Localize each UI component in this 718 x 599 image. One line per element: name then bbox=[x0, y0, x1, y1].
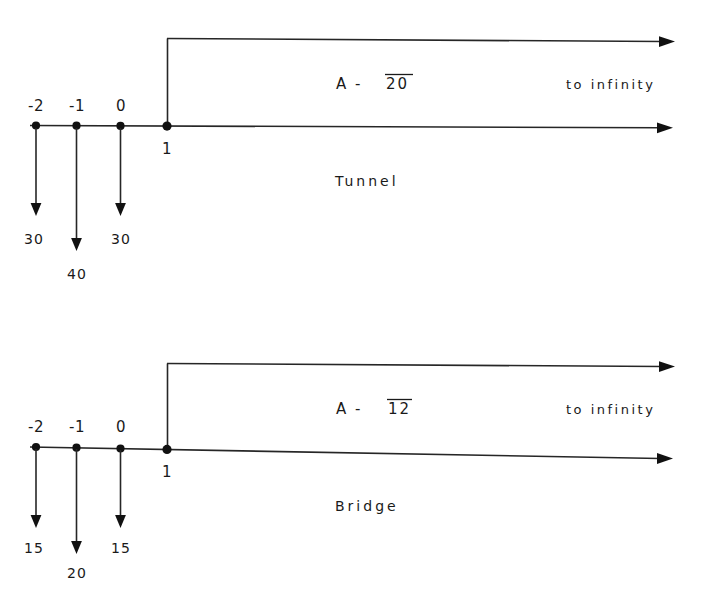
axis-tunnel bbox=[30, 122, 673, 133]
diagram-canvas: -2 -1 0 1 30 40 30 A - 20 bbox=[0, 0, 718, 599]
to-infinity-label: to infinity bbox=[566, 77, 655, 92]
panel-tunnel: -2 -1 0 1 30 40 30 A - 20 bbox=[24, 36, 675, 282]
drop-arrowhead-icon bbox=[115, 515, 126, 528]
drop-value-minus1: 20 bbox=[67, 565, 87, 581]
to-infinity-label: to infinity bbox=[566, 402, 655, 417]
tick-label-minus1: -1 bbox=[69, 418, 85, 436]
drop-value-zero: 15 bbox=[111, 540, 131, 556]
nodes-tunnel: -2 -1 0 1 bbox=[28, 97, 172, 158]
axis-arrowhead-icon bbox=[657, 122, 673, 133]
tick-label-minus2: -2 bbox=[28, 418, 44, 436]
arc-capacity-value: 20 bbox=[386, 75, 409, 93]
upper-arc-arrowhead-icon bbox=[659, 361, 675, 372]
tick-label-minus1: -1 bbox=[69, 97, 85, 115]
upper-arc-line bbox=[167, 364, 662, 367]
tick-label-one: 1 bbox=[162, 463, 172, 481]
arc-capacity-label-tunnel: A - 20 bbox=[336, 75, 413, 94]
axis-bridge bbox=[30, 447, 673, 464]
figure-root: -2 -1 0 1 30 40 30 A - 20 bbox=[0, 0, 718, 599]
tick-label-one: 1 bbox=[162, 140, 172, 158]
upper-arc-line bbox=[167, 39, 662, 42]
arc-capacity-value: 12 bbox=[388, 400, 411, 418]
panel-title-bridge: Bridge bbox=[335, 498, 399, 514]
drop-arrowhead-icon bbox=[115, 203, 126, 216]
axis-arrowhead-icon bbox=[657, 453, 673, 464]
drop-arcs-tunnel: 30 40 30 bbox=[24, 128, 131, 282]
drop-arrowhead-icon bbox=[71, 238, 82, 251]
tick-label-zero: 0 bbox=[116, 418, 126, 436]
drop-value-minus2: 15 bbox=[24, 540, 44, 556]
drop-arrowhead-icon bbox=[71, 541, 82, 554]
drop-arcs-bridge: 15 20 15 bbox=[24, 449, 131, 581]
arc-capacity-prefix: A - bbox=[336, 75, 362, 93]
panel-title-tunnel: Tunnel bbox=[334, 173, 399, 189]
drop-arrowhead-icon bbox=[31, 515, 42, 528]
drop-value-minus1: 40 bbox=[67, 266, 87, 282]
arc-capacity-label-bridge: A - 12 bbox=[336, 400, 412, 419]
tick-label-zero: 0 bbox=[116, 97, 126, 115]
panel-bridge: -2 -1 0 1 15 20 15 A - 12 bbox=[24, 361, 675, 581]
arc-capacity-prefix: A - bbox=[336, 400, 362, 418]
node-dot-origin bbox=[162, 445, 171, 454]
drop-value-minus2: 30 bbox=[24, 231, 44, 247]
node-dot-origin bbox=[162, 122, 171, 131]
tick-label-minus2: -2 bbox=[28, 97, 44, 115]
drop-value-zero: 30 bbox=[111, 231, 131, 247]
upper-arc-arrowhead-icon bbox=[659, 36, 675, 47]
drop-arrowhead-icon bbox=[31, 203, 42, 216]
